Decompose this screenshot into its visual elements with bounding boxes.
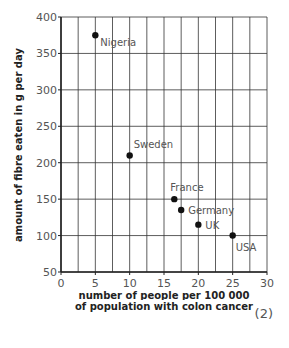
y-tick-label: 50 xyxy=(43,266,57,279)
data-point-germany xyxy=(178,207,184,213)
marks-label: (2) xyxy=(255,306,273,321)
x-tick-label: 20 xyxy=(191,277,205,290)
data-point-sweden xyxy=(126,152,132,158)
x-axis-title-line1: number of people per 100 000 xyxy=(79,290,250,300)
x-tick-label: 30 xyxy=(260,277,274,290)
data-point-france xyxy=(171,196,177,202)
y-tick-label: 400 xyxy=(36,11,57,24)
x-tick-label: 5 xyxy=(92,277,99,290)
data-points: NigeriaSwedenFranceGermanyUKUSA xyxy=(92,32,256,253)
point-label-nigeria: Nigeria xyxy=(100,37,136,48)
point-label-germany: Germany xyxy=(188,205,234,216)
point-label-usa: USA xyxy=(236,242,257,253)
y-tick-label: 250 xyxy=(36,120,57,133)
y-axis-title: amount of fibre eaten in g per day xyxy=(13,48,24,242)
y-tick-label: 150 xyxy=(36,193,57,206)
y-axis-ticks: 50100150200250300350400 xyxy=(36,11,61,279)
data-point-usa xyxy=(229,232,235,238)
x-axis-title-line2-container: of population with colon cancer xyxy=(0,300,289,314)
x-tick-label: 15 xyxy=(157,277,171,290)
data-point-nigeria xyxy=(92,32,98,38)
point-label-uk: UK xyxy=(205,220,219,231)
point-label-sweden: Sweden xyxy=(134,139,174,150)
y-tick-label: 350 xyxy=(36,47,57,60)
x-tick-label: 0 xyxy=(58,277,65,290)
x-tick-label: 10 xyxy=(123,277,137,290)
y-tick-label: 200 xyxy=(36,157,57,170)
x-axis-title-line2: of population with colon cancer xyxy=(75,301,253,312)
x-axis-ticks: 051015202530 xyxy=(58,272,275,290)
y-tick-label: 300 xyxy=(36,84,57,97)
scatter-chart: 50100150200250300350400 051015202530 Nig… xyxy=(0,0,289,300)
y-tick-label: 100 xyxy=(36,230,57,243)
x-tick-label: 25 xyxy=(226,277,240,290)
point-label-france: France xyxy=(170,182,203,193)
data-point-uk xyxy=(195,221,201,227)
